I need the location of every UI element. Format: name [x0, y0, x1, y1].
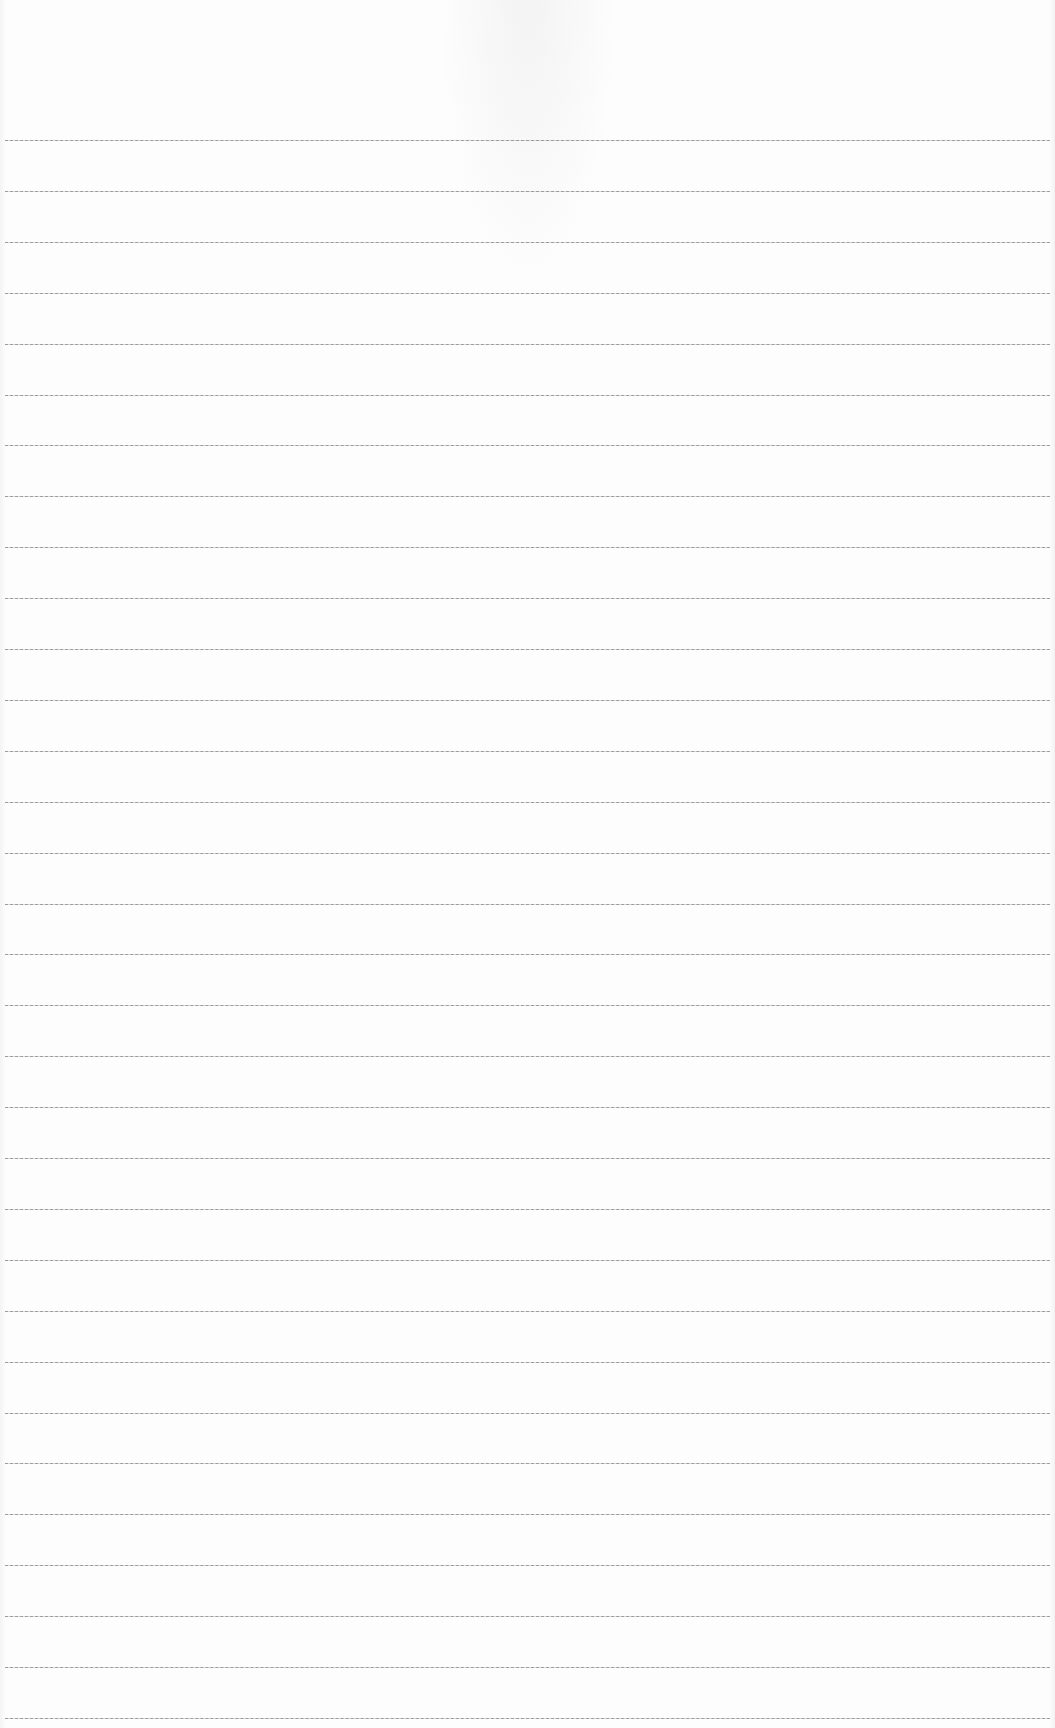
ruled-line [5, 700, 1050, 701]
ruled-line [5, 751, 1050, 752]
ruled-line [5, 1514, 1050, 1515]
ruled-line [5, 802, 1050, 803]
ruled-line [5, 242, 1050, 243]
ruled-line [5, 1413, 1050, 1414]
ruled-line [5, 547, 1050, 548]
ruled-line [5, 445, 1050, 446]
ruled-line [5, 1056, 1050, 1057]
ruled-line [5, 1616, 1050, 1617]
ruled-line [5, 344, 1050, 345]
ruled-line [5, 1718, 1050, 1719]
ruled-line [5, 1667, 1050, 1668]
ruled-line [5, 1311, 1050, 1312]
ruled-line [5, 1107, 1050, 1108]
ruled-line [5, 191, 1050, 192]
ruled-line [5, 1158, 1050, 1159]
ruled-line [5, 496, 1050, 497]
ruled-line [5, 1463, 1050, 1464]
ruled-line [5, 1565, 1050, 1566]
ruled-line [5, 293, 1050, 294]
top-margin [0, 0, 1055, 120]
ruled-line [5, 598, 1050, 599]
ruled-line [5, 954, 1050, 955]
ruled-line [5, 1209, 1050, 1210]
ruled-line [5, 1260, 1050, 1261]
ruled-line [5, 395, 1050, 396]
ruled-line [5, 1362, 1050, 1363]
lined-paper-sheet [0, 0, 1055, 1728]
ruled-line [5, 904, 1050, 905]
ruled-line [5, 1005, 1050, 1006]
ruled-line [5, 140, 1050, 141]
ruled-line [5, 649, 1050, 650]
ruled-line [5, 853, 1050, 854]
